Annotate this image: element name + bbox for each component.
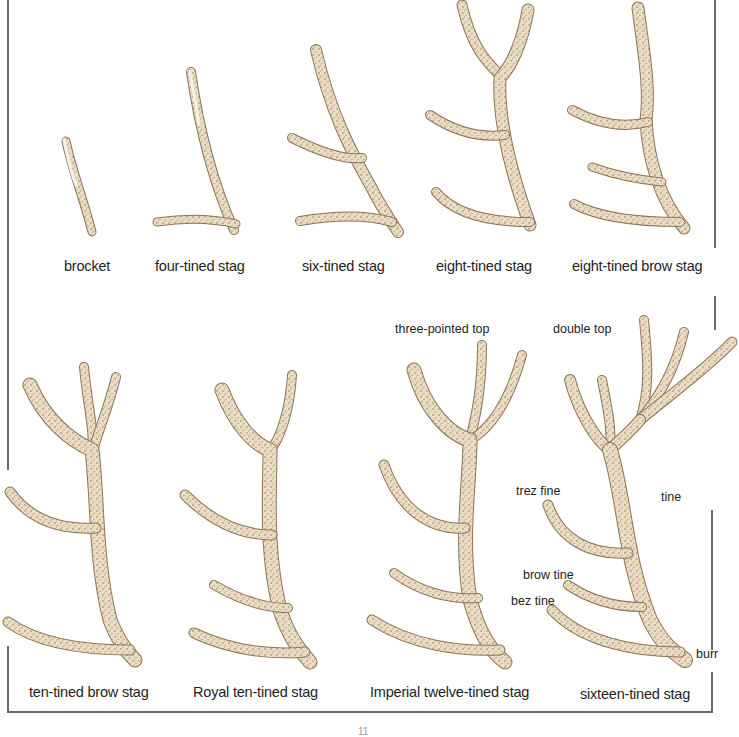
antler-royal-ten-tined — [185, 375, 310, 662]
caption-royal-ten-tined-stag: Royal ten-tined stag — [193, 684, 318, 700]
caption-six-tined-stag: six-tined stag — [302, 258, 385, 274]
caption-four-tined-stag: four-tined stag — [155, 258, 245, 274]
antler-six-tined — [292, 50, 398, 232]
caption-imperial-twelve-tined-stag: Imperial twelve-tined stag — [370, 684, 529, 700]
antler-four-tined — [157, 72, 236, 230]
antler-brocket — [64, 140, 92, 232]
antler-imperial-twelve-tined — [372, 345, 522, 662]
antler-eight-tined-brow — [572, 8, 684, 228]
caption-eight-tined-stag: eight-tined stag — [436, 258, 532, 274]
antler-eight-tined — [430, 5, 530, 225]
antler-ten-tined-brow — [8, 367, 135, 660]
caption-brocket: brocket — [64, 258, 110, 274]
annotation-brow-tine: brow tine — [523, 568, 574, 582]
annotation-tine: tine — [661, 490, 681, 504]
page-number: 11 — [358, 726, 368, 737]
annotation-trez-tine: trez fine — [516, 484, 560, 498]
annotation-three-pointed-top: three-pointed top — [395, 322, 490, 336]
caption-ten-tined-brow-stag: ten-tined brow stag — [29, 684, 149, 700]
caption-sixteen-tined-stag: sixteen-tined stag — [580, 686, 690, 702]
annotation-double-top: double top — [553, 322, 611, 336]
antler-sixteen-tined — [548, 320, 732, 660]
caption-eight-tined-brow-stag: eight-tined brow stag — [572, 258, 702, 274]
annotation-bez-tine: bez tine — [511, 594, 555, 608]
annotation-burr: burr — [696, 647, 718, 661]
